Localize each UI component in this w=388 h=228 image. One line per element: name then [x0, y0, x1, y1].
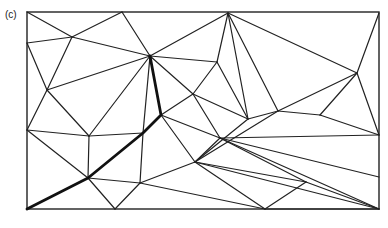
mesh-edge: [320, 115, 379, 135]
mesh-edge: [140, 133, 143, 183]
mesh-edge: [220, 135, 379, 138]
mesh-edge: [195, 162, 306, 182]
mesh-edge: [122, 12, 150, 56]
mesh-edge: [217, 62, 248, 119]
mesh-edge: [306, 182, 379, 209]
mesh-edge: [89, 56, 150, 136]
mesh-edge: [140, 162, 195, 183]
triangulation-mesh: [0, 0, 388, 228]
mesh-edge: [72, 37, 150, 56]
mesh-edge: [320, 73, 357, 115]
mesh-edge: [88, 136, 89, 178]
mesh-edge: [248, 111, 278, 119]
mesh-edge: [357, 73, 379, 135]
mesh-edge: [72, 12, 122, 37]
mesh-edge: [195, 162, 379, 209]
mesh-edge: [228, 13, 248, 119]
mesh-edge: [89, 133, 143, 136]
mesh-edge: [47, 90, 89, 136]
mesh-edge: [195, 138, 220, 162]
mesh-edge: [27, 90, 47, 130]
mesh-edge: [193, 62, 217, 94]
mesh-edge: [115, 183, 140, 209]
mesh-edge: [357, 13, 379, 73]
mesh-edge: [161, 94, 193, 115]
mesh-edge: [220, 138, 379, 209]
mesh-edge: [27, 130, 88, 178]
mesh-edge: [150, 56, 217, 62]
mesh-edge: [195, 119, 248, 162]
mesh-edge: [228, 13, 357, 73]
mesh-edge: [47, 37, 72, 90]
mesh-edge: [27, 37, 72, 43]
mesh-edge: [217, 13, 228, 62]
mesh-edge: [220, 138, 306, 182]
mesh-edge: [88, 178, 115, 209]
mesh-edge: [47, 56, 150, 90]
mesh-edge: [150, 13, 228, 56]
mesh-edge: [27, 43, 47, 90]
mesh-edge: [88, 178, 140, 183]
mesh-edges: [27, 12, 379, 209]
mesh-edge: [265, 182, 306, 209]
mesh-edge: [27, 130, 89, 136]
mesh-edge: [27, 12, 72, 37]
mesh-edge: [278, 111, 320, 115]
mesh-edge: [143, 56, 150, 133]
mesh-edge: [278, 73, 357, 111]
